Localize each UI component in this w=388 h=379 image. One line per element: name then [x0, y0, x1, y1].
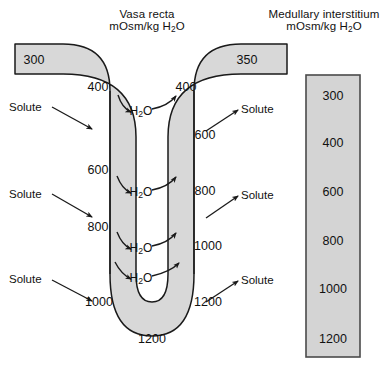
- water-label-row-4: H2O: [130, 272, 153, 286]
- value-ascending-400: 400: [176, 81, 197, 94]
- value-inlet-300: 300: [24, 54, 45, 67]
- solute-arrow-left-row-2: [52, 194, 92, 217]
- interstitium-value-600: 600: [323, 186, 344, 199]
- value-descending-600: 600: [88, 164, 109, 177]
- solute-label-right-row-2: Solute: [241, 189, 274, 201]
- value-descending-400: 400: [88, 81, 109, 94]
- water-label-row-2: H2O: [130, 186, 153, 200]
- interstitium-value-300: 300: [323, 90, 344, 103]
- value-descending-1000: 1000: [85, 296, 113, 309]
- interstitium-value-400: 400: [323, 137, 344, 150]
- solute-label-left-row-2: Solute: [9, 188, 42, 200]
- value-ascending-1000: 1000: [194, 240, 222, 253]
- value-descending-800: 800: [88, 221, 109, 234]
- solute-arrow-right-row-2: [206, 196, 238, 218]
- vasa-recta-figure: Vasa recta mOsm/kg H2O Medullary interst…: [0, 0, 388, 379]
- solute-label-right-row-1: Solute: [241, 103, 274, 115]
- water-label-row-1: H2O: [130, 105, 153, 119]
- solute-label-left-row-3: Solute: [9, 273, 42, 285]
- value-outlet-350: 350: [237, 54, 258, 67]
- interstitium-value-800: 800: [323, 235, 344, 248]
- interstitium-value-1200: 1200: [319, 333, 347, 346]
- solute-label-left-row-1: Solute: [9, 101, 42, 113]
- solute-label-right-row-3: Solute: [241, 274, 274, 286]
- value-ascending-1200: 1200: [194, 296, 222, 309]
- solute-arrow-left-row-1: [52, 107, 92, 129]
- value-ascending-600: 600: [195, 129, 216, 142]
- medullary-interstitium-column: [306, 75, 360, 357]
- value-ascending-800: 800: [195, 185, 216, 198]
- interstitium-value-1000: 1000: [319, 283, 347, 296]
- value-hairpin-bottom-1200: 1200: [138, 333, 166, 346]
- water-label-row-3: H2O: [130, 242, 153, 256]
